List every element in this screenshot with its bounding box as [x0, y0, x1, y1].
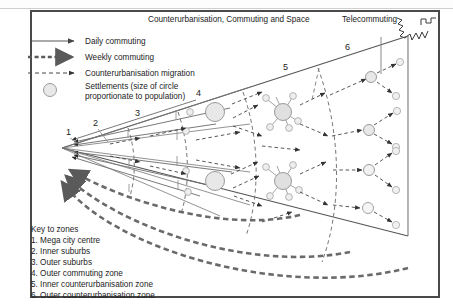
settlement-satellite-circle — [295, 118, 302, 125]
settlement-satellite-circle — [290, 93, 297, 100]
counterurbanisation-diagram: Counterurbanisation, Commuting and Space… — [0, 0, 453, 308]
legend-label-daily-commuting: Daily commuting — [85, 37, 146, 46]
settlement-circle-outer — [364, 165, 375, 176]
zone-number-2: 2 — [93, 118, 98, 128]
legend-label-counterurbanisation-migration: Counterurbanisation migration — [85, 69, 195, 78]
key-heading: Key to zones — [31, 225, 78, 234]
settlement-circle-tiny — [392, 186, 399, 193]
telecommuting-zigzag-icon-2 — [421, 18, 436, 25]
settlement-circle-icon — [44, 84, 57, 97]
wedge-outline — [62, 36, 408, 236]
figure-title: Counterurbanisation, Commuting and Space — [148, 15, 310, 24]
outer-zone-settlements — [330, 58, 404, 228]
settlement-circle-outer — [363, 203, 374, 214]
settlement-circle-tiny — [392, 147, 399, 154]
settlement-circle-large — [206, 103, 225, 122]
settlement-circle-small — [187, 109, 194, 116]
settlement-satellite-circle — [290, 162, 297, 169]
legend-row-settlements: Settlements (size of circle proportionat… — [44, 82, 186, 101]
settlement-satellite-circle — [263, 95, 270, 102]
legend-label-settlements-line1: Settlements (size of circle — [85, 82, 179, 91]
settlement-circle-tiny — [392, 221, 399, 228]
key-item-5: 5. Inner counterurbanisation zone — [31, 280, 153, 289]
settlement-circle-outer — [364, 125, 375, 136]
legend-row-weekly-commuting: Weekly commuting — [28, 53, 154, 62]
legend-row-daily-commuting: Daily commuting — [32, 37, 146, 46]
settlement-cluster-upper — [263, 93, 302, 132]
settlement-circle-tiny — [396, 58, 403, 65]
settlement-circle-small — [185, 189, 192, 196]
key-item-4: 4. Outer commuting zone — [31, 269, 123, 278]
key-item-6: 6. Outer counterurbanisation zone — [31, 291, 155, 300]
key-item-1: 1. Mega city centre — [31, 236, 101, 245]
zone-number-4: 4 — [196, 88, 201, 98]
zone-number-1: 1 — [66, 127, 71, 137]
telecommuting-zigzag-icon-1 — [397, 18, 405, 38]
settlement-hub-circle — [275, 104, 292, 121]
settlement-satellite-circle — [263, 164, 270, 171]
settlements-zone4 — [183, 103, 225, 196]
zone-number-6: 6 — [345, 42, 350, 52]
settlement-circle-outer — [366, 72, 377, 83]
zone6-leader-dash — [312, 68, 319, 100]
telecommuting-label: Telecommuting — [342, 15, 398, 24]
settlement-circle-large — [206, 172, 225, 191]
settlement-circle-tiny — [392, 92, 399, 99]
settlement-satellite-circle — [286, 125, 293, 132]
zone-number-5: 5 — [283, 62, 288, 72]
settlement-hub-circle — [275, 173, 292, 190]
legend-label-settlements-line2: proportionate to population) — [85, 92, 185, 101]
settlement-cluster-lower — [263, 162, 303, 201]
key-item-2: 2. Inner suburbs — [31, 247, 90, 256]
key-item-3: 3. Outer suburbs — [31, 258, 92, 267]
settlement-circle-tiny — [393, 107, 400, 114]
settlement-satellite-circle — [286, 194, 293, 201]
weekly-commuting-arcs — [62, 170, 408, 278]
settlement-satellite-circle — [267, 193, 274, 200]
figure-page: Counterurbanisation, Commuting and Space… — [0, 0, 453, 308]
settlement-satellite-circle — [267, 124, 274, 131]
zone-number-3: 3 — [135, 108, 140, 118]
legend-row-counterurbanisation-migration: Counterurbanisation migration — [28, 69, 195, 78]
legend-label-weekly-commuting: Weekly commuting — [85, 53, 154, 62]
key-to-zones: Key to zones 1. Mega city centre 2. Inne… — [31, 225, 155, 300]
